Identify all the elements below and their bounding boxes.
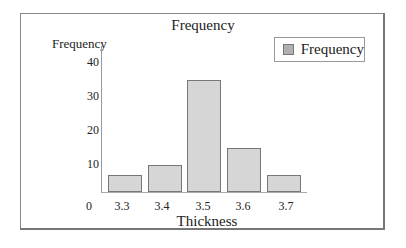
y-axis-label: Frequency bbox=[52, 36, 107, 52]
y-tick-10: 10 bbox=[79, 157, 99, 172]
bar-3.6 bbox=[227, 148, 261, 192]
bar-3.3 bbox=[108, 175, 142, 192]
y-tick-30: 30 bbox=[79, 89, 99, 104]
x-tick-label: 3.6 bbox=[228, 199, 258, 214]
legend-label: Frequency bbox=[301, 41, 364, 58]
chart-title: Frequency bbox=[0, 17, 406, 34]
x-tick-label: 3.5 bbox=[188, 199, 218, 214]
x-tick-label: 3.4 bbox=[147, 199, 177, 214]
bar-3.7 bbox=[267, 175, 301, 192]
x-axis-line bbox=[101, 192, 307, 193]
bar-3.4 bbox=[148, 165, 182, 192]
origin-label: 0 bbox=[86, 199, 92, 214]
y-axis-line bbox=[101, 46, 102, 192]
bar-3.5 bbox=[187, 80, 221, 192]
x-tick-label: 3.3 bbox=[107, 199, 137, 214]
x-axis-label: Thickness bbox=[0, 213, 406, 230]
y-tick-40: 40 bbox=[79, 55, 99, 70]
y-tick-20: 20 bbox=[79, 123, 99, 138]
legend-swatch bbox=[283, 44, 294, 55]
legend: Frequency bbox=[274, 37, 365, 62]
x-tick-label: 3.7 bbox=[271, 199, 301, 214]
